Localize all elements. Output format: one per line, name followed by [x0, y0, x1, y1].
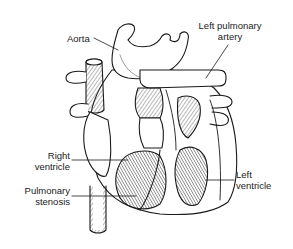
label-left-pulmonary-artery: Left pulmonary artery	[190, 20, 270, 42]
label-left-ventricle-line2: ventricle	[236, 180, 271, 191]
superior-vena-cava	[86, 59, 104, 113]
label-left-ventricle: Left ventricle	[236, 169, 271, 191]
pulmonary-trunk	[135, 88, 163, 118]
label-pulmonary-stenosis-line2: stenosis	[10, 196, 70, 207]
label-right-ventricle-line1: Right	[20, 150, 70, 161]
left-ventricle-muscle	[175, 147, 207, 205]
label-right-ventricle-line2: ventricle	[20, 161, 70, 172]
label-pulmonary-stenosis-line1: Pulmonary	[10, 185, 70, 196]
label-left-pulmonary-artery-line1: Left pulmonary	[190, 20, 270, 31]
left-pulmonary-artery	[140, 70, 226, 88]
label-right-ventricle: Right ventricle	[20, 150, 70, 172]
label-pulmonary-stenosis: Pulmonary stenosis	[10, 185, 70, 207]
label-aorta: Aorta	[67, 33, 90, 44]
label-left-pulmonary-artery-line2: artery	[190, 31, 270, 42]
label-left-ventricle-line1: Left	[236, 169, 271, 180]
right-atrium	[84, 112, 111, 176]
